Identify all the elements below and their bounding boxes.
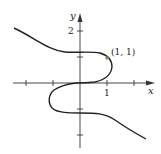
point-label: (1, 1) (111, 47, 135, 57)
y-axis-label: y (69, 10, 76, 21)
y-axis-arrow-icon (78, 13, 83, 22)
x-axis-label: x (148, 85, 154, 96)
point-marker (105, 56, 109, 60)
y-tick-label: 2 (68, 26, 74, 36)
x-tick-label: 1 (104, 88, 110, 98)
curve-plot: x y 1 2 (1, 1) (0, 0, 161, 154)
